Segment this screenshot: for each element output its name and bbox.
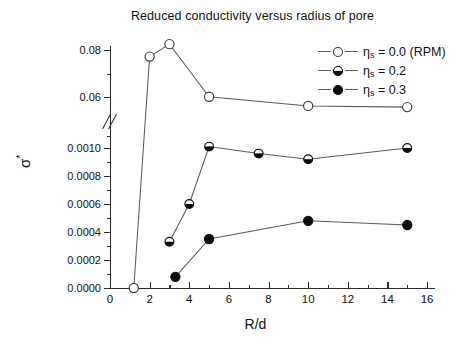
data-point-open-circle	[145, 52, 154, 61]
data-point-half-filled-circle	[185, 200, 194, 209]
data-point-filled-circle	[204, 234, 213, 243]
legend-item[interactable]: ηs = 0.3	[318, 80, 446, 99]
legend-item[interactable]: ηs = 0.2	[318, 61, 446, 80]
data-point-filled-circle	[334, 85, 343, 94]
series-2	[171, 216, 412, 281]
legend-label: ηs = 0.0 (RPM)	[358, 45, 446, 59]
series-line	[175, 221, 407, 277]
data-point-half-filled-circle	[254, 149, 263, 158]
data-point-open-circle	[204, 92, 213, 101]
data-point-filled-circle	[304, 216, 313, 225]
data-point-half-filled-circle	[403, 144, 412, 153]
chart-legend: ηs = 0.0 (RPM)ηs = 0.2ηs = 0.3	[318, 42, 446, 99]
data-point-open-circle	[304, 101, 313, 110]
data-point-filled-circle	[171, 272, 180, 281]
data-point-open-circle	[165, 40, 174, 49]
chart-container: Reduced conductivity versus radius of po…	[0, 0, 471, 352]
data-point-half-filled-circle	[304, 155, 313, 164]
legend-label: ηs = 0.2	[358, 64, 406, 78]
data-point-open-circle	[403, 103, 412, 112]
legend-symbol-open-circle	[318, 45, 358, 59]
legend-label: ηs = 0.3	[358, 83, 406, 97]
series-line	[169, 147, 407, 242]
data-point-filled-circle	[403, 220, 412, 229]
data-point-open-circle	[334, 47, 343, 56]
legend-item[interactable]: ηs = 0.0 (RPM)	[318, 42, 446, 61]
data-point-half-filled-circle	[205, 142, 214, 151]
data-point-half-filled-circle	[334, 66, 343, 75]
legend-symbol-filled-circle	[318, 83, 358, 97]
legend-symbol-half-filled-circle	[318, 64, 358, 78]
series-1	[165, 142, 412, 246]
data-point-open-circle	[129, 283, 138, 292]
data-point-half-filled-circle	[165, 237, 174, 246]
